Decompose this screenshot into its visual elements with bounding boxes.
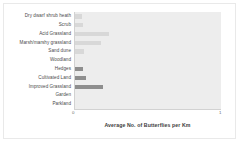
x-axis-title: Average No. of Butterflies per Km bbox=[74, 122, 221, 128]
bar bbox=[75, 49, 84, 53]
category-label: Hedges bbox=[4, 65, 73, 74]
category-label: Garden bbox=[4, 91, 73, 100]
category-label: Dry dwarf shrub heath bbox=[4, 12, 73, 21]
bar bbox=[75, 85, 103, 89]
category-label: Improved Grassland bbox=[4, 83, 73, 92]
bar bbox=[75, 67, 83, 71]
bar-row bbox=[75, 21, 221, 30]
bar bbox=[75, 14, 82, 18]
x-tick-label-min: 0 bbox=[72, 111, 74, 115]
x-axis-line bbox=[74, 109, 221, 110]
bar-row bbox=[75, 38, 221, 47]
bar-row bbox=[75, 56, 221, 65]
bar-row bbox=[75, 100, 221, 109]
bar-row bbox=[75, 74, 221, 83]
x-tick-label-max: 1 bbox=[219, 111, 221, 115]
bar-row bbox=[75, 83, 221, 92]
category-label: Marsh/marshy grassland bbox=[4, 38, 73, 47]
bar-row bbox=[75, 12, 221, 21]
category-label: Cultivated Land bbox=[4, 74, 73, 83]
bars-layer bbox=[75, 12, 221, 109]
bar-row bbox=[75, 30, 221, 39]
category-label: Sand dune bbox=[4, 47, 73, 56]
bar-row bbox=[75, 47, 221, 56]
category-label: Acid Grassland bbox=[4, 30, 73, 39]
bar-row bbox=[75, 65, 221, 74]
bar-chart-figure: Dry dwarf shrub heath Scrub Acid Grassla… bbox=[0, 0, 239, 142]
bar bbox=[75, 23, 83, 27]
bar bbox=[75, 32, 109, 36]
plot-area bbox=[74, 12, 221, 109]
bar-row bbox=[75, 91, 221, 100]
bar bbox=[75, 76, 86, 80]
bar bbox=[75, 41, 101, 45]
category-label: Woodland bbox=[4, 56, 73, 65]
category-label: Scrub bbox=[4, 21, 73, 30]
category-axis: Dry dwarf shrub heath Scrub Acid Grassla… bbox=[4, 12, 73, 109]
category-label: Parkland bbox=[4, 100, 73, 109]
